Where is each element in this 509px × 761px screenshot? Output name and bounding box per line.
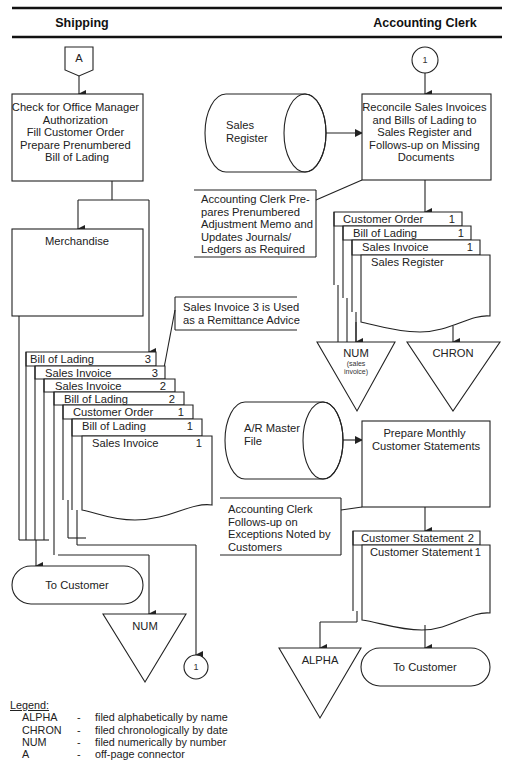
file-alpha: ALPHA	[279, 648, 361, 718]
svg-text:1: 1	[458, 227, 464, 239]
terminator-to-customer-accounting: To Customer	[361, 648, 490, 686]
svg-text:Sales Invoice: Sales Invoice	[45, 367, 112, 379]
svg-text:1: 1	[422, 55, 427, 65]
svg-text:To Customer: To Customer	[45, 579, 109, 591]
file-ar-master: A/R Master File	[225, 402, 343, 479]
file-sales-register: Sales Register	[205, 94, 326, 172]
svg-text:2: 2	[160, 380, 166, 392]
svg-text:1: 1	[467, 241, 473, 253]
file-num-shipping: NUM	[103, 614, 186, 682]
legend-item-num: NUM-filed numerically by number	[10, 736, 228, 748]
legend: Legend: ALPHA-filed alphabetically by na…	[10, 699, 228, 760]
terminator-to-customer-shipping: To Customer	[12, 566, 143, 604]
svg-text:Bill of Lading: Bill of Lading	[353, 227, 417, 239]
svg-text:3: 3	[152, 367, 158, 379]
svg-text:To Customer: To Customer	[393, 661, 457, 673]
svg-text:Customer Order: Customer Order	[343, 213, 423, 225]
document-sales-register: Sales Register	[361, 255, 490, 332]
swimlane-header: Shipping Accounting Clerk	[12, 8, 502, 37]
svg-text:Sales Register: Sales Register	[371, 256, 444, 268]
svg-text:Customer Statement: Customer Statement	[370, 546, 473, 558]
file-chron: CHRON	[407, 342, 500, 411]
svg-text:2: 2	[169, 393, 175, 405]
lane-title-accounting-clerk: Accounting Clerk	[373, 16, 477, 30]
legend-item-offpage: A-off-page connector	[10, 748, 228, 760]
onpage-connector-1-accounting: 1	[412, 47, 438, 73]
svg-text:Customer Order: Customer Order	[73, 406, 153, 418]
annotation-remittance-advice: Sales Invoice 3 is Used as a Remittance …	[164, 297, 302, 368]
svg-text:1: 1	[178, 406, 184, 418]
svg-text:Sales Invoice 3 is Used: Sales Invoice 3 is Used as a Remittance …	[183, 301, 302, 326]
svg-text:1: 1	[196, 437, 202, 449]
svg-text:CHRON: CHRON	[432, 347, 473, 359]
svg-text:Customer Statement: Customer Statement	[361, 532, 464, 544]
customer-statement-stack: Customer Statement 2 Customer Statement …	[320, 531, 490, 630]
svg-text:Bill of Lading: Bill of Lading	[30, 353, 94, 365]
shipping-document-stack: Bill of Lading 3 Sales Invoice 3 Sales I…	[26, 352, 212, 555]
process-prepare-statements: Prepare Monthly Customer Statements	[362, 421, 490, 507]
offpage-connector-a: A	[65, 47, 93, 76]
merchandise-box: Merchandise	[12, 229, 143, 316]
lane-title-shipping: Shipping	[55, 16, 108, 30]
svg-text:ALPHA: ALPHA	[302, 654, 339, 666]
svg-text:3: 3	[145, 353, 151, 365]
svg-text:Merchandise: Merchandise	[45, 235, 109, 247]
svg-text:1: 1	[193, 662, 198, 672]
svg-text:Bill of Lading: Bill of Lading	[82, 420, 146, 432]
legend-item-chron: CHRON-filed chronologically by date	[10, 724, 228, 736]
process-reconcile: Reconcile Sales Invoices and Bills of La…	[362, 94, 491, 180]
accounting-document-stack: Customer Order 1 Bill of Lading 1 Sales …	[334, 212, 490, 345]
svg-text:Sales Invoice: Sales Invoice	[362, 241, 429, 253]
svg-text:Sales Invoice: Sales Invoice	[55, 380, 122, 392]
svg-text:1: 1	[475, 546, 481, 558]
legend-title: Legend:	[10, 699, 228, 711]
svg-text:(sales: (sales	[347, 360, 366, 368]
onpage-connector-1-shipping: 1	[184, 655, 208, 679]
svg-text:invoice): invoice)	[344, 368, 368, 376]
annotation-exceptions: Accounting Clerk Follows-up on Exception…	[220, 498, 362, 555]
svg-text:NUM: NUM	[343, 347, 368, 359]
svg-text:2: 2	[468, 532, 474, 544]
legend-item-alpha: ALPHA-filed alphabetically by name	[10, 711, 228, 723]
svg-text:1: 1	[449, 213, 455, 225]
process-check-authorization: Check for Office Manager Authorization F…	[12, 94, 143, 181]
document-customer-statement-1: Customer Statement 1	[362, 545, 490, 630]
svg-text:Bill of Lading: Bill of Lading	[64, 393, 128, 405]
svg-text:NUM: NUM	[132, 620, 157, 632]
svg-text:Prepare Monthly Customer: Prepare Monthly Customer Statements	[372, 427, 481, 452]
svg-text:Sales Invoice: Sales Invoice	[92, 437, 159, 449]
svg-text:Accounting Clerk Pre- pa: Accounting Clerk Pre- pares Prenumbered …	[201, 193, 316, 255]
document-sales-invoice-1: Sales Invoice 1	[82, 436, 212, 520]
svg-text:A: A	[75, 52, 83, 64]
file-num-sales-invoice: NUM (sales invoice)	[317, 342, 395, 411]
svg-text:1: 1	[187, 420, 193, 432]
svg-text:Accounting Clerk Follows: Accounting Clerk Follows-up on Exception…	[228, 503, 334, 553]
flowchart-canvas: Shipping Accounting Clerk A Check for Of…	[0, 0, 509, 761]
